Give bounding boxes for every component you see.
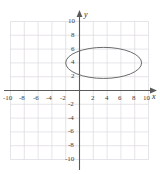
y-tick-label--4: -4 [68, 115, 74, 122]
y-tick-label-10: 10 [68, 18, 75, 25]
x-tick-label-4: 4 [105, 95, 109, 102]
x-tick-label--8: -8 [19, 95, 25, 102]
y-tick-label-4: 4 [71, 59, 75, 66]
x-axis-label: x [152, 93, 156, 101]
coordinate-plane-figure: -10 -8 -6 -4 -2 2 4 6 8 10 10 8 6 4 2 -2… [0, 0, 160, 174]
y-tick-label--8: -8 [68, 142, 74, 149]
x-tick-label-8: 8 [132, 95, 136, 102]
x-tick-label-10: 10 [143, 95, 150, 102]
y-tick-label--10: -10 [65, 156, 74, 163]
x-tick-label-6: 6 [118, 95, 122, 102]
x-tick-label--6: -6 [33, 95, 39, 102]
x-axis [4, 88, 157, 94]
x-tick-label-2: 2 [91, 95, 95, 102]
x-tick-label--10: -10 [3, 95, 12, 102]
plot-canvas [0, 0, 160, 174]
x-tick-label--2: -2 [60, 95, 66, 102]
y-tick-label-8: 8 [71, 32, 75, 39]
y-tick-label-6: 6 [71, 46, 75, 53]
y-tick-label--6: -6 [68, 128, 74, 135]
y-tick-label--2: -2 [68, 101, 74, 108]
y-axis-label: y [84, 11, 88, 19]
x-tick-label--4: -4 [46, 95, 52, 102]
y-tick-label-2: 2 [71, 73, 75, 80]
